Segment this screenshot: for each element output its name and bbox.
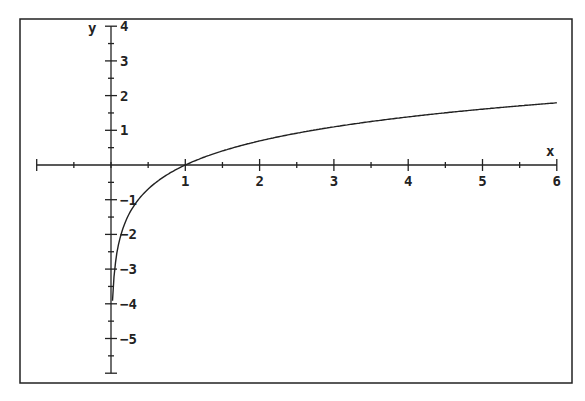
y-tick-label: 1 xyxy=(120,122,128,138)
y-tick-label: −5 xyxy=(120,331,137,347)
x-tick-label: 1 xyxy=(181,173,189,189)
x-tick-label: 6 xyxy=(553,173,561,189)
x-tick-label: 4 xyxy=(404,173,412,189)
x-tick-label: 5 xyxy=(478,173,486,189)
y-tick-label: 3 xyxy=(120,53,128,69)
y-tick-label: −3 xyxy=(120,261,137,277)
y-tick-label: 2 xyxy=(120,88,128,104)
y-axis-label: y xyxy=(88,20,97,36)
x-tick-label: 2 xyxy=(255,173,263,189)
x-axis-label: x xyxy=(546,143,555,159)
x-tick-label: 3 xyxy=(330,173,338,189)
log-chart: 1234564321−1−2−3−4−5 x y xyxy=(0,0,585,401)
chart-frame xyxy=(20,19,572,383)
y-tick-label: 4 xyxy=(120,18,128,34)
y-tick-label: −4 xyxy=(120,296,137,312)
